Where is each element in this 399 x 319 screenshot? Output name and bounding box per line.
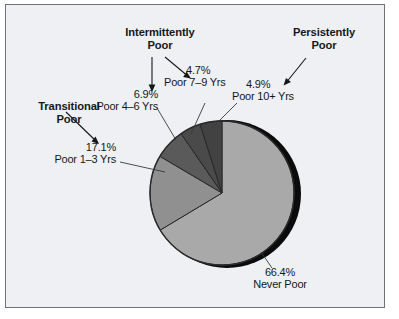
callout-never-poor: 66.4% Never Poor <box>232 266 328 291</box>
annotation-persistently-poor: Persistently Poor <box>272 26 376 51</box>
callout-poor-1-3-name: Poor 1–3 Yrs <box>20 153 116 165</box>
callout-poor-4-6: 6.9% Poor 4–6 Yrs <box>62 88 158 113</box>
callout-poor-1-3: 17.1% Poor 1–3 Yrs <box>20 141 116 166</box>
figure-root: Transitional Poor Intermittently Poor Pe… <box>0 0 399 319</box>
annotation-transitional-line2: Poor <box>56 113 81 125</box>
annotation-intermittently-poor: Intermittently Poor <box>105 26 215 51</box>
callout-poor-10-plus-pct: 4.9% <box>232 78 328 90</box>
callout-poor-10-plus-name: Poor 10+ Yrs <box>232 90 328 102</box>
annotation-intermittently-line2: Poor <box>147 39 172 51</box>
callout-poor-7-9-pct: 4.7% <box>164 64 254 76</box>
annotation-persistently-line1: Persistently <box>293 26 355 38</box>
annotation-intermittently-line1: Intermittently <box>125 26 194 38</box>
callout-poor-10-plus: 4.9% Poor 10+ Yrs <box>232 78 328 103</box>
annotation-persistently-line2: Poor <box>311 39 336 51</box>
leader-poor-4-6 <box>157 108 176 140</box>
callout-never-poor-name: Never Poor <box>232 278 328 290</box>
callout-poor-4-6-pct: 6.9% <box>62 88 158 100</box>
callout-poor-4-6-name: Poor 4–6 Yrs <box>62 100 158 112</box>
callout-poor-1-3-pct: 17.1% <box>20 141 116 153</box>
pie-slices <box>150 121 294 265</box>
callout-never-poor-pct: 66.4% <box>232 266 328 278</box>
